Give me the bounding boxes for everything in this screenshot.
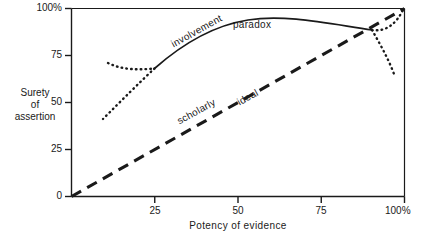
y-axis-title-line-2: of <box>0 100 70 110</box>
y-axis-title-line-3: assertion <box>0 112 70 122</box>
y-tick-label-75: 75 <box>24 50 62 60</box>
y-tick-label-0: 0 <box>24 191 62 201</box>
x-tick-label-100: 100% <box>385 206 424 216</box>
figure-container: 100% 75 50 25 0 25 50 75 100% Surety of … <box>0 0 424 238</box>
dotted-right-lower-branch <box>372 30 394 74</box>
x-tick-label-50: 50 <box>217 206 259 216</box>
y-tick-label-100: 100% <box>24 3 62 13</box>
dotted-left-lower-branch <box>103 69 155 120</box>
series-dotted-left <box>103 63 155 119</box>
x-axis-ticks <box>155 197 405 204</box>
x-tick-label-25: 25 <box>134 206 176 216</box>
x-axis-title: Potency of evidence <box>158 221 318 231</box>
y-axis-title-line-1: Surety <box>0 88 70 98</box>
dotted-right-upper-branch <box>372 10 403 30</box>
x-tick-label-75: 75 <box>300 206 342 216</box>
y-tick-label-25: 25 <box>24 144 62 154</box>
dotted-left-upper-branch <box>108 63 155 69</box>
annotation-paradox: paradox <box>233 20 271 30</box>
